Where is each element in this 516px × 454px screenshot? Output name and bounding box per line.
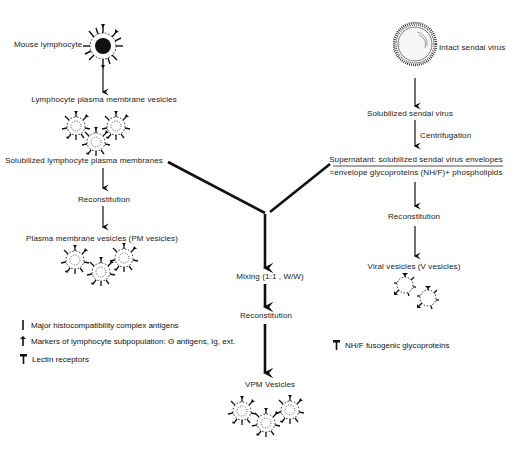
viral-vesicles-icon xyxy=(394,273,439,309)
legend-label: Lectin receptors xyxy=(32,355,89,364)
label-mixing: Mixing (1:1 , W/W) xyxy=(236,272,304,282)
legend-item-nh-f-glycoproteins: NH/F fusogenic glycoproteins xyxy=(333,340,450,350)
label-solubilized-lymphocyte-membranes: Solubilized lymphocyte plasma membranes xyxy=(5,156,163,166)
label-supernatant: Supernatant: solubilized sendai virus en… xyxy=(329,155,503,165)
legend-item-lymphocyte-markers: Markers of lymphocyte subpopulation: Θ a… xyxy=(20,336,235,346)
vpm-vesicles-icon xyxy=(228,395,304,437)
label-envelope-composition: =envelope glycoproteins (NH/F)+ phosphol… xyxy=(329,168,502,178)
lectin-receptor-marker-icon xyxy=(20,354,27,364)
legend-item-mhc: Major histocompatibility complex antigen… xyxy=(20,320,179,330)
left-merge-line xyxy=(168,162,265,213)
legend-label: NH/F fusogenic glycoproteins xyxy=(345,341,450,350)
label-lymphocyte-pm-vesicles: Lymphocyte plasma membrane vesicles xyxy=(31,95,176,105)
label-right-reconstitution: Reconstitution xyxy=(388,212,440,222)
label-pm-vesicles: Plasma membrane vesicles (PM vesicles) xyxy=(26,234,178,244)
label-intact-sendai-virus: Intact sendai virus xyxy=(439,43,505,53)
label-vpm-vesicles: VPM Vesicles xyxy=(245,380,295,390)
major-histocompatibility-marker-icon xyxy=(20,320,26,330)
lymphocyte-membrane-vesicles-icon xyxy=(62,111,130,156)
legend-label: Major histocompatibility complex antigen… xyxy=(31,321,179,330)
label-left-reconstitution: Reconstitution xyxy=(78,195,130,205)
label-centrifugation: Centrifugation xyxy=(420,131,471,141)
label-mouse-lymphocyte: Mouse lymphocyte xyxy=(14,40,82,50)
label-center-reconstitution: Reconstitution xyxy=(240,311,292,321)
intact-sendai-virus-icon xyxy=(394,23,436,65)
label-viral-vesicles: Viral vesicles (V vesicles) xyxy=(368,262,461,272)
pm-vesicles-icon xyxy=(61,243,138,286)
fusogenic-glycoprotein-marker-icon xyxy=(333,340,340,350)
label-solubilized-sendai-virus: Solubilized sendai virus xyxy=(367,109,453,119)
legend-item-lectin-receptors: Lectin receptors xyxy=(20,354,89,364)
legend-label: Markers of lymphocyte subpopulation: Θ a… xyxy=(31,337,235,346)
mouse-lymphocyte-icon xyxy=(83,24,123,69)
lymphocyte-subpopulation-marker-icon xyxy=(20,336,26,346)
right-merge-line xyxy=(270,164,330,212)
